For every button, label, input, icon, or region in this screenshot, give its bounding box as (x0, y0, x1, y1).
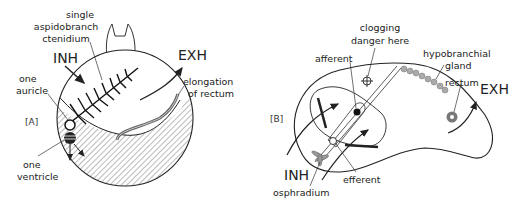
label-inh-a: INH (53, 50, 78, 66)
label-osphradium: osphradium (273, 187, 330, 198)
efferent-vessel-icon (330, 138, 337, 145)
auricle-icon (65, 120, 75, 130)
mollusc-mantle-cavity-diagram: single aspidobranch ctenidium INH EXH on… (0, 0, 522, 207)
label-auricle-1: one (19, 73, 37, 84)
label-ctenidium-3: ctenidium (42, 33, 89, 44)
label-afferent: afferent (315, 53, 353, 64)
panel-b: clogging danger here afferent hypobranch… (270, 22, 509, 198)
label-rectum-b: rectum (445, 77, 479, 88)
label-rectum-1: elongation (183, 76, 233, 87)
label-rectum-2: of rectum (188, 88, 234, 99)
label-inh-b: INH (284, 167, 309, 183)
label-clogging-1: clogging (360, 22, 400, 33)
panel-b-tag: [B] (270, 114, 283, 124)
label-hypobranchial-2: gland (445, 60, 472, 71)
label-hypobranchial-1: hypobranchial (423, 48, 491, 59)
label-exh-b: EXH (480, 81, 509, 97)
panel-a: single aspidobranch ctenidium INH EXH on… (16, 9, 234, 200)
label-ctenidium-1: single (66, 9, 94, 20)
ventricle-icon (64, 132, 76, 144)
afferent-vessel-icon (354, 109, 361, 116)
label-efferent: efferent (343, 174, 381, 185)
label-ctenidium-2: aspidobranch (34, 21, 98, 32)
panel-a-tag: [A] (25, 117, 38, 127)
label-clogging-2: danger here (351, 35, 409, 46)
label-auricle-2: auricle (16, 85, 48, 96)
label-exh-a: EXH (178, 47, 207, 63)
label-ventricle-2: ventricle (17, 171, 59, 182)
diagram-stage: single aspidobranch ctenidium INH EXH on… (0, 0, 522, 207)
label-ventricle-1: one (23, 159, 41, 170)
